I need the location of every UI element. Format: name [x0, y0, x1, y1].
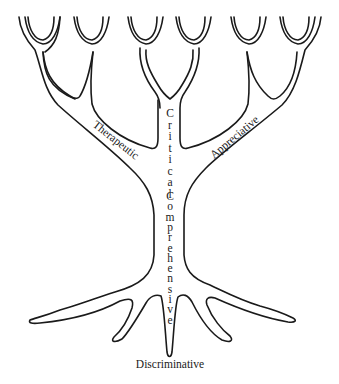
label-critical: Critical	[166, 107, 174, 200]
svg-text:C: C	[166, 107, 174, 119]
svg-text:t: t	[168, 142, 172, 154]
left-inner-branch	[43, 52, 93, 98]
right-inner-branch	[247, 52, 297, 99]
label-comprehensive: Comprehensive	[166, 190, 175, 326]
svg-text:a: a	[167, 176, 172, 188]
svg-text:e: e	[167, 314, 172, 326]
svg-text:c: c	[167, 165, 172, 177]
svg-text:i: i	[168, 153, 171, 165]
center-trunk-left	[140, 48, 160, 108]
svg-text:r: r	[168, 119, 172, 131]
tree-diagram: Therapeutic Appreciative Critical Compre…	[0, 0, 339, 384]
label-discriminative: Discriminative	[136, 358, 204, 370]
svg-text:i: i	[168, 130, 171, 142]
fork-left-notch	[43, 17, 75, 99]
